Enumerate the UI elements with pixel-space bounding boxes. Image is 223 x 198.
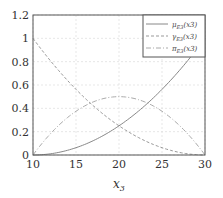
x-tick-label: 20: [112, 158, 126, 171]
legend-pi-label: πE3(x3): [171, 45, 198, 54]
legend-mu-label: μE3(x3): [172, 21, 198, 30]
y-tick-label: 1.2: [12, 9, 30, 22]
x-tick-label: 30: [198, 158, 212, 171]
y-tick-label: 0.8: [12, 56, 30, 69]
x-tick-label: 15: [69, 158, 83, 171]
y-tick-label: 1: [22, 32, 29, 45]
x-axis-ticks: 1015202530: [26, 158, 212, 171]
legend: μE3(x3) γE3(x3) πE3(x3): [143, 15, 205, 57]
legend-gamma-label: γE3(x3): [172, 33, 197, 42]
y-axis-ticks: 00.20.40.60.811.2: [12, 9, 30, 162]
chart: 00.20.40.60.811.2 1015202530 x3 μE3(x3) …: [0, 0, 223, 198]
y-tick-label: 0.6: [12, 79, 30, 92]
y-tick-label: 0.2: [12, 126, 30, 139]
x-tick-label: 25: [155, 158, 169, 171]
y-tick-label: 0.4: [12, 102, 30, 115]
x-tick-label: 10: [26, 158, 40, 171]
x-axis-label: x3: [113, 177, 125, 193]
